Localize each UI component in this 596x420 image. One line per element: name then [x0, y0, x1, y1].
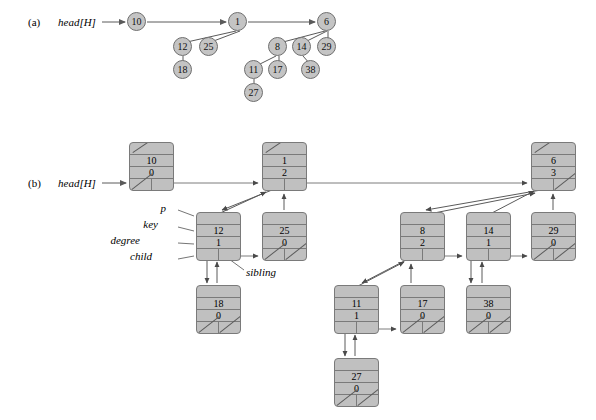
node-8-pointer-row [401, 249, 444, 261]
node-25-key-field: 25 [263, 225, 306, 237]
panel-b-label: (b) [28, 177, 41, 189]
tree-node-18: 18 [173, 60, 192, 79]
node-14-key-field: 14 [467, 225, 510, 237]
node-38-pointer-row [467, 322, 510, 334]
tree-node-17: 17 [268, 60, 287, 79]
tree-node-27: 27 [244, 83, 263, 102]
node-29-pointer-row [532, 249, 575, 261]
figure-canvas: (a) head[H] 1016122581 [0, 0, 596, 420]
node-1-child-field [263, 179, 285, 191]
tree-node-14: 14 [292, 37, 311, 56]
node-14-degree-field: 1 [467, 237, 510, 249]
node-27-key-field: 27 [335, 371, 378, 383]
node-8-key-field: 8 [401, 225, 444, 237]
tree-node-29: 29 [317, 37, 336, 56]
node-18-degree-field: 0 [197, 310, 240, 322]
node-29-degree-field: 0 [532, 237, 575, 249]
heap-node-25: 250 [262, 212, 307, 261]
tree-node-10: 10 [127, 12, 146, 31]
node-17-pointer-row [401, 322, 444, 334]
node-12-key-field: 12 [197, 225, 240, 237]
nil-slash-icon [423, 322, 445, 334]
node-17-key-field: 17 [401, 298, 444, 310]
node-17-p-field [401, 286, 444, 298]
tree-node-1: 1 [228, 12, 247, 31]
nil-slash-icon [263, 249, 284, 261]
node-8-p-field [401, 213, 444, 225]
panel-a-wires [0, 0, 596, 420]
node-29-key-field: 29 [532, 225, 575, 237]
nil-slash-icon [554, 249, 576, 261]
heap-node-17: 170 [400, 285, 445, 334]
nil-slash-icon [401, 322, 422, 334]
node-11-pointer-row [335, 322, 378, 334]
panel-a-label: (a) [28, 16, 40, 28]
node-1-sibling-field [285, 179, 307, 191]
nil-slash-icon [335, 395, 356, 407]
node-6-p-field [532, 143, 575, 155]
nil-slash-icon [285, 249, 307, 261]
heap-node-12: 121 [196, 212, 241, 261]
node-6-pointer-row [532, 179, 575, 191]
annotation-sibling: sibling [246, 266, 276, 278]
heap-node-38: 380 [466, 285, 511, 334]
node-29-child-field [532, 249, 554, 261]
tree-node-8: 8 [268, 37, 287, 56]
node-1-p-field [263, 143, 306, 155]
node-29-sibling-field [554, 249, 576, 261]
node-27-pointer-row [335, 395, 378, 407]
node-38-sibling-field [489, 322, 511, 334]
node-25-p-field [263, 213, 306, 225]
node-25-child-field [263, 249, 285, 261]
node-11-child-field [335, 322, 357, 334]
node-25-degree-field: 0 [263, 237, 306, 249]
node-11-key-field: 11 [335, 298, 378, 310]
nil-slash-icon [467, 322, 488, 334]
node-12-degree-field: 1 [197, 237, 240, 249]
panel-b-wires [0, 0, 596, 420]
node-1-key-field: 1 [263, 155, 306, 167]
node-12-p-field [197, 213, 240, 225]
node-12-child-field [197, 249, 219, 261]
node-17-sibling-field [423, 322, 445, 334]
node-11-sibling-field [357, 322, 379, 334]
node-38-p-field [467, 286, 510, 298]
head-pointer-label-a: head[H] [58, 16, 96, 28]
node-14-p-field [467, 213, 510, 225]
node-1-pointer-row [263, 179, 306, 191]
node-18-child-field [197, 322, 219, 334]
nil-slash-icon [357, 395, 379, 407]
heap-node-14: 141 [466, 212, 511, 261]
node-27-p-field [335, 359, 378, 371]
node-6-sibling-field [554, 179, 576, 191]
tree-node-38: 38 [301, 60, 320, 79]
heap-node-10: 100 [129, 142, 174, 191]
heap-node-8: 82 [400, 212, 445, 261]
node-18-key-field: 18 [197, 298, 240, 310]
node-1-degree-field: 2 [263, 167, 306, 179]
nil-slash-icon [197, 322, 218, 334]
node-11-p-field [335, 286, 378, 298]
heap-node-11: 111 [334, 285, 379, 334]
heap-node-27: 270 [334, 358, 379, 407]
node-8-child-field [401, 249, 423, 261]
tree-node-6: 6 [317, 12, 336, 31]
node-12-sibling-field [219, 249, 241, 261]
node-27-sibling-field [357, 395, 379, 407]
node-11-degree-field: 1 [335, 310, 378, 322]
node-10-sibling-field [152, 179, 174, 191]
node-27-degree-field: 0 [335, 383, 378, 395]
node-27-child-field [335, 395, 357, 407]
node-12-pointer-row [197, 249, 240, 261]
node-6-key-field: 6 [532, 155, 575, 167]
node-25-pointer-row [263, 249, 306, 261]
heap-node-1: 12 [262, 142, 307, 191]
heap-node-18: 180 [196, 285, 241, 334]
node-14-pointer-row [467, 249, 510, 261]
nil-slash-icon [130, 179, 151, 191]
node-10-key-field: 10 [130, 155, 173, 167]
node-8-degree-field: 2 [401, 237, 444, 249]
node-38-child-field [467, 322, 489, 334]
tree-node-12: 12 [173, 37, 192, 56]
node-6-degree-field: 3 [532, 167, 575, 179]
